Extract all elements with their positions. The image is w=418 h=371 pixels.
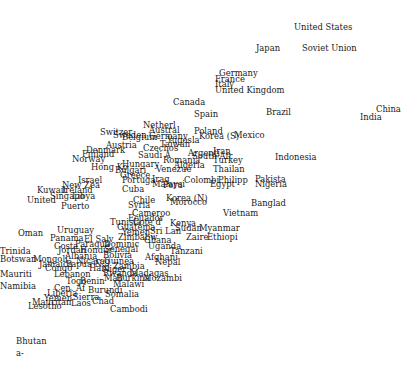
- country-label: Venezue: [156, 165, 191, 174]
- country-label: Bhutan: [16, 337, 47, 346]
- country-label: Cuba: [122, 185, 144, 194]
- country-label: Japan: [256, 44, 280, 53]
- country-label: Nigeria: [255, 180, 287, 189]
- country-label: Brazil: [266, 108, 291, 117]
- country-label: United States: [294, 23, 352, 32]
- country-label: Oman: [18, 229, 43, 238]
- country-label: Canada: [173, 98, 205, 107]
- country-label-scatter-plot: United StatesJapanSoviet UnionGermanyFra…: [0, 0, 418, 371]
- country-label: Vietnam: [223, 209, 258, 218]
- country-label: India: [360, 113, 382, 122]
- country-label: Libya: [72, 192, 95, 201]
- country-label: Thailan: [213, 165, 245, 174]
- country-label: Peru: [163, 181, 183, 190]
- country-label: Botswan: [0, 255, 36, 264]
- country-label: Soviet Union: [302, 44, 357, 53]
- country-label: Indonesia: [275, 153, 316, 162]
- country-label: a-: [16, 349, 24, 358]
- country-label: Korea (S): [199, 132, 239, 141]
- country-label: Namibia: [0, 282, 36, 291]
- country-label: Zaire: [186, 233, 208, 242]
- country-label: Mozambi: [143, 274, 182, 283]
- country-label: Nepal: [155, 258, 180, 267]
- country-label: United Kingdom: [215, 86, 285, 95]
- country-label: United: [27, 196, 56, 205]
- country-label: Banglad: [251, 199, 286, 208]
- country-label: Puerto: [61, 202, 89, 211]
- country-label: Spain: [194, 110, 218, 119]
- country-label: Laos: [71, 299, 91, 308]
- country-label: Lesotho: [28, 302, 62, 311]
- country-label: Ethiopi: [207, 233, 238, 242]
- country-label: Egypt: [210, 180, 235, 189]
- country-label: Mexico: [234, 131, 265, 140]
- country-label: Mauriti: [0, 270, 32, 279]
- country-label: Morocco: [170, 198, 207, 207]
- country-label: Cambodi: [110, 305, 148, 314]
